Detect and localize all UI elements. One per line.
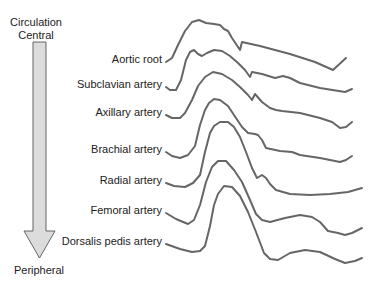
waveform-subclavian-artery	[166, 50, 352, 92]
waveform-group	[166, 20, 362, 263]
artery-label: Femoral artery	[90, 204, 162, 217]
artery-label: Brachial artery	[91, 143, 162, 156]
waveform-dorsalis-pedis-artery	[166, 186, 362, 263]
artery-label: Aortic root	[112, 53, 162, 66]
artery-label: Dorsalis pedis artery	[62, 235, 162, 248]
waveform-radial-artery	[166, 122, 362, 195]
waveform-femoral-artery	[166, 161, 362, 235]
artery-label: Radial artery	[100, 174, 162, 187]
waveform-axillary-artery	[166, 72, 352, 128]
waveform-aortic-root	[166, 20, 346, 70]
diagram-canvas	[0, 0, 380, 289]
peripheral-label: Peripheral	[6, 264, 72, 277]
central-to-peripheral-arrow-icon	[24, 42, 55, 258]
artery-label: Subclavian artery	[77, 78, 162, 91]
waveform-brachial-artery	[166, 99, 352, 162]
artery-label: Axillary artery	[95, 106, 162, 119]
